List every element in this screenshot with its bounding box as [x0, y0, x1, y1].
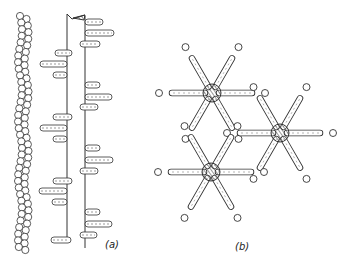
small-circle	[261, 169, 268, 176]
bead-chain	[14, 12, 32, 253]
small-circle	[182, 44, 189, 51]
hexagonal-unit	[224, 84, 337, 183]
hatched-core	[271, 124, 289, 142]
hexagonal-unit	[156, 44, 269, 143]
small-circle	[156, 90, 163, 97]
small-circle	[155, 169, 162, 176]
small-circle	[235, 135, 242, 142]
hexagonal-units	[155, 44, 337, 222]
hexagonal-unit	[155, 123, 268, 222]
hatched-core	[202, 163, 220, 181]
side-chains	[39, 19, 114, 243]
small-circle	[330, 130, 337, 137]
small-circle	[235, 44, 242, 51]
small-circle	[181, 123, 188, 130]
panel-label-b: (b)	[235, 241, 249, 252]
small-circle	[303, 84, 310, 91]
diagram-figure	[0, 0, 347, 269]
small-circle	[234, 214, 241, 221]
hatched-cap	[73, 15, 85, 20]
panel-label-a: (a)	[105, 239, 119, 250]
small-circle	[181, 214, 188, 221]
hatched-core	[203, 84, 221, 102]
small-circle	[262, 90, 269, 97]
small-circle	[234, 123, 241, 130]
small-circle	[250, 84, 257, 91]
small-circle	[250, 175, 257, 182]
small-circle	[303, 175, 310, 182]
backbone	[67, 14, 85, 248]
